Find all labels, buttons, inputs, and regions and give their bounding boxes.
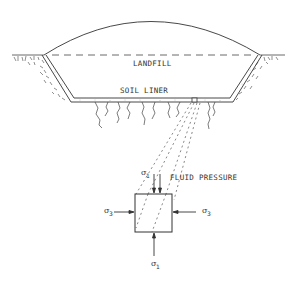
sigma1-bottom-subscript: 1 — [156, 263, 160, 270]
ground-surface-left — [12, 55, 65, 100]
stress-element-box — [135, 194, 172, 232]
sigma3-left-arrow — [114, 211, 134, 214]
sigma1-top-subscript: 1 — [146, 172, 150, 179]
landfill-dome — [44, 22, 260, 56]
sigma3-right-subscript: 3 — [207, 210, 211, 217]
sigma3-left-subscript: 3 — [109, 210, 113, 217]
liner-element-marker — [192, 98, 197, 102]
landfill-diagram: LANDFILL SOIL LINER σ 1 FLUID PRESSURE σ… — [0, 0, 303, 284]
sigma3-right-arrow — [173, 211, 196, 214]
liner-cracks — [95, 102, 215, 129]
soil-liner-label: SOIL LINER — [120, 86, 168, 95]
landfill-label: LANDFILL — [133, 59, 172, 68]
fluid-pressure-label: FLUID PRESSURE — [170, 173, 238, 182]
sigma1-top-arrows — [153, 174, 162, 193]
sigma1-bottom-arrow — [153, 233, 156, 256]
